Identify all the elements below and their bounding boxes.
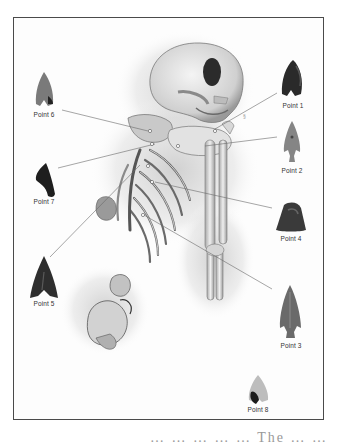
skull-annotation-mark: § <box>243 113 246 119</box>
point-5-label: Point 5 <box>34 300 55 307</box>
point-1-label: Point 1 <box>283 102 304 109</box>
point-3-label: Point 3 <box>281 342 302 349</box>
projectile-point-6 <box>36 72 53 106</box>
point-2-label: Point 2 <box>282 167 303 174</box>
point-7-label: Point 7 <box>34 198 55 205</box>
figure-caption-cropped: … … … … … The … … <box>150 430 328 446</box>
projectile-point-4 <box>276 203 306 232</box>
projectile-point-1 <box>282 60 302 96</box>
point-8-label: Point 8 <box>248 406 269 413</box>
projectile-point-8 <box>249 375 268 404</box>
projectile-point-2 <box>284 121 300 162</box>
bone-fragment <box>96 197 116 221</box>
projectile-point-5 <box>30 256 58 298</box>
projectile-point-7 <box>36 163 55 197</box>
point-6-label: Point 6 <box>34 111 55 118</box>
projectile-point-3 <box>280 285 301 338</box>
point-4-label: Point 4 <box>281 235 302 242</box>
